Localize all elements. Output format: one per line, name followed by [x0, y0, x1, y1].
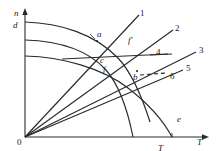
x-tick-sub: dz	[163, 150, 168, 151]
x-tick-label-tdz: Tdz	[158, 138, 168, 151]
curve-label-e: e	[177, 115, 181, 124]
y-axis-arrow	[22, 8, 27, 15]
curve-label-6: 6	[170, 72, 175, 81]
origin-label: 0	[17, 138, 22, 147]
point-label-a: a	[97, 30, 102, 39]
y-intercept-label-d: d	[13, 21, 18, 30]
point-label-f: f	[103, 65, 106, 74]
characteristic-curves	[25, 22, 172, 137]
curve-label-3: 3	[199, 46, 204, 55]
x-axis-label: T	[197, 138, 202, 147]
point-label-b: b	[133, 73, 138, 82]
point-a-marker	[96, 40, 98, 42]
curve-label-1: 1	[140, 9, 145, 18]
x-axis-arrow	[202, 134, 209, 139]
curve-label-2: 2	[175, 24, 180, 33]
curve-label-4: 4	[156, 48, 161, 57]
y-axis-label: n	[14, 9, 19, 18]
point-label-f-prime: f'	[128, 36, 132, 45]
curve-mid	[25, 40, 133, 137]
diagram-svg	[0, 0, 218, 151]
curve-label-5: 5	[186, 64, 191, 73]
load-line-3	[25, 52, 196, 137]
curve-low	[25, 56, 172, 137]
figure-canvas: n d 0 T Tdz 1 2 3 4 5 6 a b c f f' e	[0, 0, 218, 151]
